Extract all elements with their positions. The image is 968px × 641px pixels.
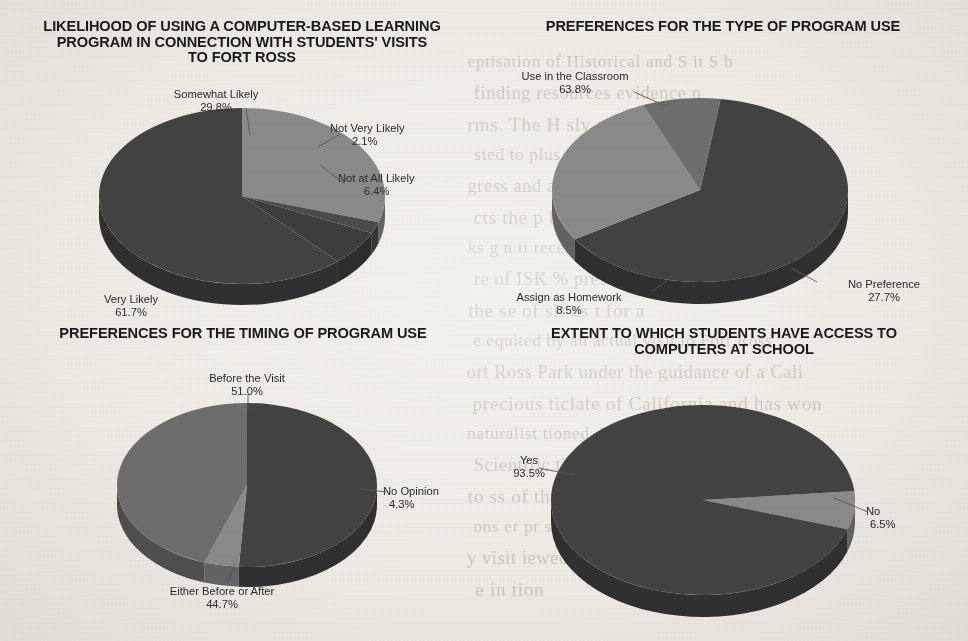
- callout-value: 51.0%: [167, 385, 327, 398]
- pie-likelihood-of-use: [0, 0, 484, 320]
- callout-value: 27.7%: [814, 291, 954, 304]
- callout-value: 61.7%: [56, 306, 206, 319]
- callout-label: Very Likely: [104, 293, 158, 305]
- callout-label: Somewhat Likely: [174, 88, 259, 100]
- callout-label: Assign as Homework: [516, 291, 621, 303]
- callout-value: 4.3%: [389, 498, 493, 511]
- figure-page: LIKELIHOOD OF USING A COMPUTER-BASED LEA…: [0, 0, 968, 641]
- pie-top-faces: [117, 403, 377, 567]
- callout-value: 6.5%: [870, 518, 956, 531]
- pie-top-faces: [552, 98, 848, 282]
- callout-label: Not Very Likely: [330, 122, 405, 134]
- callout-use-in-the-classroom: Use in the Classroom 63.8%: [480, 70, 670, 96]
- pie-3d-body-4: [539, 405, 868, 617]
- callout-label: Either Before or After: [170, 585, 274, 597]
- callout-value: 8.5%: [474, 304, 664, 317]
- callout-value: 29.8%: [126, 101, 306, 114]
- callout-value: 63.8%: [480, 83, 670, 96]
- callout-no-preference: No Preference 27.7%: [814, 278, 954, 304]
- callout-label: Use in the Classroom: [522, 70, 629, 82]
- callout-label: Not at All Likely: [338, 172, 414, 184]
- pie-3d-body-3: [117, 394, 386, 587]
- callout-no-opinion: No Opinion 4.3%: [383, 485, 493, 511]
- callout-very-likely: Very Likely 61.7%: [56, 293, 206, 319]
- callout-somewhat-likely: Somewhat Likely 29.8%: [126, 88, 306, 114]
- chart-panel-type-of-program-use: PREFERENCES FOR THE TYPE OF PROGRAM USE …: [484, 0, 968, 320]
- callout-before-the-visit: Before the Visit 51.0%: [167, 372, 327, 398]
- chart-panel-computer-access: EXTENT TO WHICH STUDENTS HAVE ACCESS TO …: [484, 320, 968, 641]
- callout-label: No Preference: [848, 278, 920, 290]
- callout-value: 2.1%: [352, 135, 480, 148]
- callout-value: 93.5%: [479, 467, 579, 480]
- pie-computer-access: [484, 320, 968, 641]
- pie-3d-body-2: [552, 92, 848, 304]
- callout-label: Before the Visit: [209, 372, 285, 384]
- callout-label: No: [866, 505, 880, 517]
- pie-top-faces: [551, 405, 855, 595]
- callout-label: Yes: [520, 454, 538, 466]
- callout-yes: Yes 93.5%: [479, 454, 579, 480]
- callout-label: No Opinion: [383, 485, 439, 497]
- chart-panel-likelihood-of-use: LIKELIHOOD OF USING A COMPUTER-BASED LEA…: [0, 0, 484, 320]
- callout-value: 6.4%: [364, 185, 493, 198]
- pie-type-of-program-use: [484, 0, 968, 320]
- callout-value: 44.7%: [122, 598, 322, 611]
- callout-no: No 6.5%: [866, 505, 956, 531]
- callout-not-at-all-likely: Not at All Likely 6.4%: [338, 172, 493, 198]
- callout-assign-as-homework: Assign as Homework 8.5%: [474, 291, 664, 317]
- callout-either-before-or-after: Either Before or After 44.7%: [122, 585, 322, 611]
- callout-not-very-likely: Not Very Likely 2.1%: [330, 122, 480, 148]
- chart-panel-timing-of-program-use: PREFERENCES FOR THE TIMING OF PROGRAM US…: [0, 320, 484, 641]
